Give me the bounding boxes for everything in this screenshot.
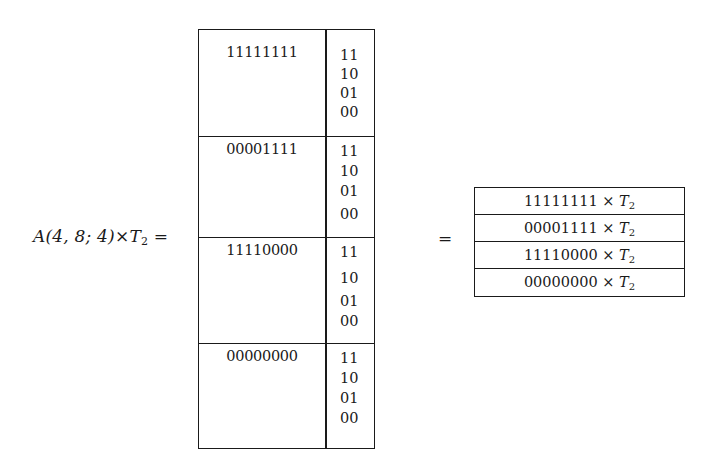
code: 01 <box>340 181 358 201</box>
code: 00 <box>340 311 358 331</box>
code: 01 <box>340 291 358 311</box>
block-pattern: 00001111 <box>199 141 325 157</box>
code: 00 <box>340 408 358 428</box>
left-matrix-table: 11111111 11 10 01 00 00001111 11 10 01 0… <box>198 29 375 449</box>
code: 00 <box>340 103 358 122</box>
row-pattern: 11111111 <box>524 193 598 209</box>
block-codes: 11 10 01 00 <box>340 348 358 428</box>
row-var: T <box>619 193 629 209</box>
block-codes: 11 10 01 00 <box>340 242 358 331</box>
block-pattern: 00000000 <box>199 348 325 364</box>
code: 11 <box>340 46 358 65</box>
product-row-4: 00000000 × T2 <box>475 269 684 296</box>
middle-equals: = <box>438 228 452 248</box>
lhs-var: T <box>129 226 141 246</box>
code: 10 <box>340 368 358 388</box>
row-sub: 2 <box>629 254 635 265</box>
times-operator: × <box>602 274 614 290</box>
product-row-3: 11110000 × T2 <box>475 242 684 269</box>
block-pattern: 11110000 <box>199 242 325 258</box>
lhs-expression: A(4, 8; 4)×T2 = <box>33 226 168 248</box>
times-operator: × <box>602 193 614 209</box>
times-operator: × <box>602 247 614 263</box>
code: 01 <box>340 388 358 408</box>
row-sub: 2 <box>629 200 635 211</box>
code: 00 <box>340 204 358 224</box>
row-pattern: 00001111 <box>524 220 598 236</box>
lhs-sub: 2 <box>141 235 148 248</box>
row-var: T <box>619 220 629 236</box>
code: 10 <box>340 268 358 288</box>
code: 10 <box>340 161 358 181</box>
code: 01 <box>340 84 358 103</box>
code: 11 <box>340 242 358 262</box>
row-var: T <box>619 274 629 290</box>
product-row-1: 11111111 × T2 <box>475 188 684 215</box>
right-product-table: 11111111 × T2 00001111 × T2 11110000 × T… <box>474 187 685 297</box>
matrix-block-3: 11110000 11 10 01 00 <box>199 238 374 344</box>
block-pattern: 11111111 <box>199 44 325 60</box>
product-row-2: 00001111 × T2 <box>475 215 684 242</box>
times-operator: × <box>602 220 614 236</box>
code: 11 <box>340 348 358 368</box>
block-codes: 11 10 01 00 <box>340 141 358 224</box>
row-pattern: 11110000 <box>524 247 598 263</box>
lhs-prefix: A(4, 8; 4)× <box>33 226 129 246</box>
matrix-block-1: 11111111 11 10 01 00 <box>199 30 374 137</box>
lhs-equals: = <box>154 226 168 246</box>
row-pattern: 00000000 <box>524 274 598 290</box>
code: 10 <box>340 65 358 84</box>
matrix-block-4: 00000000 11 10 01 00 <box>199 344 374 450</box>
row-sub: 2 <box>629 227 635 238</box>
matrix-block-2: 00001111 11 10 01 00 <box>199 137 374 238</box>
block-codes: 11 10 01 00 <box>340 46 358 122</box>
row-var: T <box>619 247 629 263</box>
code: 11 <box>340 141 358 161</box>
row-sub: 2 <box>629 281 635 292</box>
